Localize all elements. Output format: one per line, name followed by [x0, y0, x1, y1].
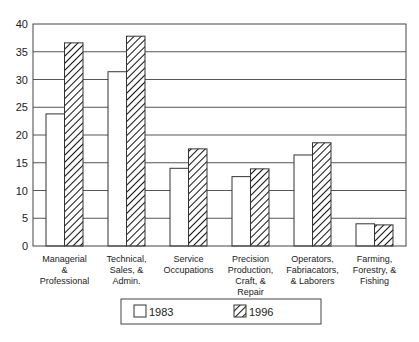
bar-1983	[232, 177, 251, 246]
y-axis-ticks: 0510152025303540	[16, 18, 28, 252]
bar-1996	[375, 225, 394, 246]
y-tick-label: 10	[16, 185, 28, 197]
legend-swatch-1996	[234, 305, 246, 317]
y-tick-label: 35	[16, 46, 28, 58]
bar-1996	[313, 143, 332, 246]
gridlines	[33, 52, 406, 219]
y-tick-label: 30	[16, 74, 28, 86]
bar-1983	[46, 114, 65, 246]
y-tick-label: 0	[22, 240, 28, 252]
y-tick-label: 40	[16, 18, 28, 30]
legend-label-1983: 1983	[149, 306, 173, 318]
y-tick-label: 20	[16, 129, 28, 141]
legend-label-1996: 1996	[249, 306, 273, 318]
legend: 1983 1996	[121, 299, 321, 324]
x-category-label: ServiceOccupations	[163, 254, 214, 275]
x-category-label: Operators,Fabriacators,& Laborers	[286, 254, 339, 286]
y-tick-label: 5	[22, 212, 28, 224]
y-tick-label: 25	[16, 101, 28, 113]
legend-swatch-1983	[134, 305, 146, 317]
x-category-label: Managerial&Professional	[40, 254, 90, 286]
bar-1996	[189, 149, 208, 246]
bar-chart: 0510152025303540 Managerial&Professional…	[0, 0, 419, 342]
bar-1996	[251, 169, 270, 246]
x-category-label: PrecisionProduction,Craft, &Repair	[228, 254, 274, 297]
bar-1996	[65, 43, 84, 246]
bar-1996	[127, 36, 146, 246]
bar-1983	[170, 168, 189, 246]
y-tick-label: 15	[16, 157, 28, 169]
x-axis-labels: Managerial&ProfessionalTechnical,Sales, …	[40, 254, 396, 297]
bar-1983	[356, 224, 375, 246]
x-category-label: Farming,Forestry, &Fishing	[353, 254, 396, 286]
x-category-label: Technical,Sales, &Admin.	[106, 254, 146, 286]
bar-1983	[294, 155, 313, 246]
bars	[46, 36, 393, 246]
bar-1983	[108, 72, 127, 246]
